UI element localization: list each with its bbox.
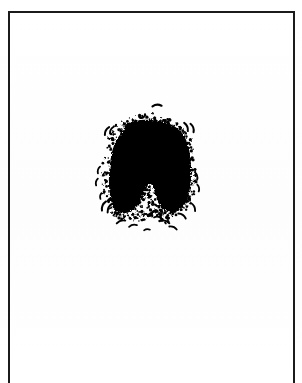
dash-mark: [191, 202, 196, 211]
dash-mark: [101, 201, 106, 211]
dash-mark: [129, 224, 137, 227]
dash-mark: [184, 122, 189, 131]
dash-mark: [97, 166, 100, 173]
dash-mark: [104, 126, 109, 135]
dash-mark: [148, 214, 153, 215]
figure-area: [8, 11, 295, 373]
dash-mark: [152, 104, 161, 106]
dash-mark: [100, 193, 102, 199]
dash-mark: [197, 184, 199, 191]
inkblot-figure: [8, 11, 295, 373]
dash-mark: [116, 219, 125, 223]
dash-mark: [169, 225, 177, 229]
dash-mark: [190, 123, 194, 132]
dash-mark: [95, 178, 98, 185]
dash-mark: [144, 229, 150, 231]
inkblot-body: [109, 120, 191, 214]
dash-mark: [178, 212, 186, 218]
